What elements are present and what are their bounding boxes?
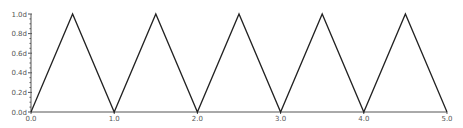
y-tick-label: 0.2d	[11, 89, 27, 97]
y-tick-label: 0.4d	[11, 69, 27, 77]
x-tick-label: 1.0	[109, 115, 120, 123]
x-tick-label: 2.0	[192, 115, 203, 123]
x-tick-label: 0.0	[25, 115, 36, 123]
x-tick-label: 5.0	[441, 115, 452, 123]
x-tick-label: 4.0	[358, 115, 369, 123]
x-axis: 0.01.02.03.04.05.0	[25, 112, 452, 123]
y-tick-label: 1.0d	[11, 11, 27, 19]
y-tick-label: 0.8d	[11, 30, 27, 38]
x-tick-label: 3.0	[275, 115, 286, 123]
y-axis: 0.0d0.2d0.4d0.6d0.8d1.0d	[11, 11, 32, 117]
triangle-wave-line	[31, 14, 447, 112]
y-tick-label: 0.6d	[11, 50, 27, 58]
series-layer	[31, 14, 447, 112]
triangle-wave-chart: 0.0d0.2d0.4d0.6d0.8d1.0d 0.01.02.03.04.0…	[0, 0, 463, 128]
